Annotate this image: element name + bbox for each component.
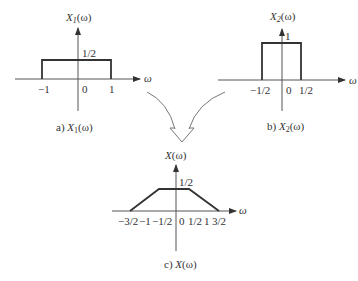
tick-label: 0 [82,83,88,95]
tick-label: −1/2 [152,215,172,227]
plot-a: X1(ω) 1/2 ω −1 0 1 a) X1(ω) [15,11,152,135]
caption-c: c) X(ω) [164,258,197,271]
caption-a: a) X1(ω) [56,121,93,135]
x-axis-label: ω [239,204,247,216]
caption-b: b) X2(ω) [267,120,305,134]
tick-label: 3/2 [212,215,226,227]
tick-label: 1/2 [188,215,202,227]
level-label: 1/2 [82,47,96,59]
plot-c: X(ω) 1/2 ω −3/2 −1 −1/2 0 1/2 1 3/2 c) X… [112,149,247,271]
y-axis-title: X2(ω) [269,10,296,24]
y-axis-title: X1(ω) [65,11,92,25]
level-label: 1 [285,30,291,42]
tick-label: 1 [204,215,210,227]
tick-label: 0 [286,84,292,96]
x-axis-label: ω [349,74,357,86]
convolution-diagram: X1(ω) 1/2 ω −1 0 1 a) X1(ω) X2(ω) 1 ω −1… [0,0,358,281]
rect-signal-x1 [42,60,111,79]
plot-b: X2(ω) 1 ω −1/2 0 1/2 b) X2(ω) [218,10,357,134]
y-axis-title: X(ω) [164,149,187,162]
convolution-arrow-icon [147,92,225,142]
level-label: 1/2 [179,176,193,188]
tick-label: 1/2 [299,84,313,96]
tick-label: 0 [179,215,185,227]
tick-label: −1/2 [250,84,270,96]
tick-label: −3/2 [118,215,138,227]
tick-label: −1 [38,83,50,95]
tick-label: 1 [109,83,115,95]
tick-label: −1 [139,215,151,227]
x-axis-label: ω [144,72,152,84]
trapezoid-signal-x [130,189,219,211]
